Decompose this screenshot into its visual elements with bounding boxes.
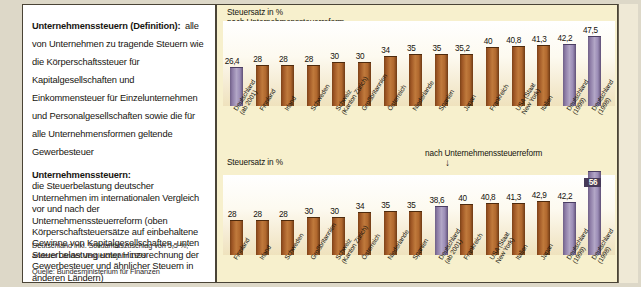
bar-value-label: 42,2 (553, 192, 577, 201)
bar-value-label: 28 (297, 55, 321, 64)
category-label-slot: Großbritannien (353, 106, 379, 150)
category-label-slot: Irland (251, 255, 277, 287)
category-label-slot: Irland (276, 106, 302, 150)
bar-value-label: 34 (348, 202, 372, 211)
chart-top-category-labels: Deutschland(ab 2001)FinnlandIrlandSchwed… (223, 106, 615, 150)
category-label-slot: Deutschland(1998) (583, 255, 609, 287)
infographic-page: Unternehmenssteuern (Definition): alle v… (0, 0, 641, 287)
bar-value-label: 47,5 (578, 26, 602, 35)
bar-value-label: 40 (476, 37, 500, 46)
category-label-slot: Spanien (404, 255, 430, 287)
category-label-slot: Schweiz(Kanton Zürich) (327, 255, 353, 287)
bar-value-label: 41,3 (502, 193, 526, 202)
category-label-slot: USA (StaatNew York) (507, 106, 533, 150)
category-label-slot: Deutschland(1999) (558, 255, 584, 287)
bar-value-label: 40,8 (476, 193, 500, 202)
bar-value-label: 35 (374, 201, 398, 210)
source-line: Quelle: Bundesministerium für Finanzen (32, 267, 208, 276)
bar-value-label: 28 (246, 55, 270, 64)
category-label-slot: USA (StaatNew York) (481, 255, 507, 287)
category-label-slot: Frankreich (481, 106, 507, 150)
bar-value-label: 40 (450, 194, 474, 203)
chart-bottom: Steuersatz in % nach Unternehmenssteuerr… (217, 149, 619, 284)
bar-value-label: 40,8 (502, 36, 526, 45)
category-label-slot: Schweden (276, 255, 302, 287)
bar-slot[interactable]: 35,2 (455, 21, 481, 106)
footnote-spacer (32, 260, 208, 267)
bar-value-label: 30 (348, 52, 372, 61)
chart-bottom-axis-title: Steuersatz in % (227, 158, 283, 167)
footnote-line-1: Deutschland inkl. Solidaritätszuschlag v… (32, 241, 208, 250)
footnote-line-2: anderer Länder Vergleichsjahr 1999 (32, 251, 208, 260)
bar-value-label: 26,4 (220, 57, 244, 66)
chart-bottom-category-labels: FinnlandIrlandSchwedenGroßbritannienSchw… (223, 255, 615, 287)
bar-value-label: 35,2 (450, 44, 474, 53)
category-label-slot: Japan (532, 255, 558, 287)
category-label-slot: Frankreich (455, 255, 481, 287)
bar-value-label: 30 (322, 52, 346, 61)
bar-value-label: 42,2 (553, 34, 577, 43)
category-label-slot: Österreich (353, 255, 379, 287)
definition-title-1: Unternehmenssteuern (Definition): (32, 21, 180, 31)
category-label-slot: Spanien (430, 106, 456, 150)
category-label-slot: Deutschland(ab 2001) (225, 106, 251, 150)
definition-title-2: Unternehmenssteuern: (32, 170, 206, 181)
bar-value-label: 30 (322, 207, 346, 216)
bar-value-label: 28 (271, 210, 295, 219)
bar-value-label: 28 (246, 210, 270, 219)
definitions-panel: Unternehmenssteuern (Definition): alle v… (22, 4, 216, 283)
chart-bottom-reform-note: nach Unternehmenssteuerreform (425, 149, 542, 158)
category-label-slot: Niederlande (404, 106, 430, 150)
category-label-slot: Schweden (302, 106, 328, 150)
category-label-slot: Niederlande (379, 255, 405, 287)
bar-value-label: 28 (271, 55, 295, 64)
bar-value-label: 35 (399, 201, 423, 210)
category-label-slot: Italien (507, 255, 533, 287)
chart-bottom-reform-arrow: ↓ (445, 159, 450, 167)
bar-slot[interactable]: 42,9 (532, 175, 558, 255)
bar-value-label: 35 (399, 44, 423, 53)
category-label-slot: Deutschland(ab 2001) (430, 255, 456, 287)
category-label-slot: Österreich (379, 106, 405, 150)
bar-value-label: 35 (425, 44, 449, 53)
chart-top: Steuersatz in % nach Unternehmenssteuerr… (217, 5, 619, 149)
bar-value-label: 34 (374, 46, 398, 55)
chart-top-axis-title: Steuersatz in % (227, 8, 283, 17)
footnotes: Deutschland inkl. Solidaritätszuschlag v… (32, 241, 208, 276)
category-label-slot: Finnland (251, 106, 277, 150)
category-label-slot: Italien (532, 106, 558, 150)
bar-value-label: 56 (584, 178, 601, 187)
bar-value-label: 30 (297, 207, 321, 216)
bar-value-label: 42,9 (527, 191, 551, 200)
bar-value-label: 28 (220, 210, 244, 219)
charts-panel: Steuersatz in % nach Unternehmenssteuerr… (216, 4, 618, 283)
page-right-margin (618, 4, 638, 283)
category-label-slot: Schweiz(Kanton Zürich) (327, 106, 353, 150)
category-label-slot: Japan (455, 106, 481, 150)
bar-value-label: 41,3 (527, 35, 551, 44)
category-label-slot: Großbritannien (302, 255, 328, 287)
definition-block-1: Unternehmenssteuern (Definition): alle v… (32, 15, 206, 159)
definition-body-1: alle von Unternehmen zu tragende Steuern… (32, 21, 203, 157)
category-label-slot: Finnland (225, 255, 251, 287)
bar-value-label: 38,6 (425, 196, 449, 205)
category-label-slot: Deutschland(1999) (558, 106, 584, 150)
category-label-slot: Deutschland(1998) (583, 106, 609, 150)
